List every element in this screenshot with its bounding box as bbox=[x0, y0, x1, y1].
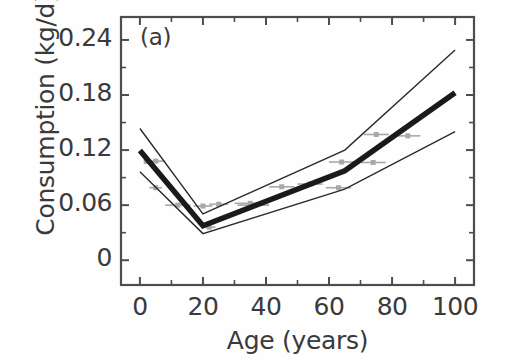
data-marker-4 bbox=[200, 204, 205, 209]
data-marker-1 bbox=[153, 159, 158, 164]
x-tick-label-5: 100 bbox=[415, 292, 495, 321]
data-series-lines bbox=[140, 50, 455, 234]
y-tick-label-3: 0.18 bbox=[2, 78, 112, 107]
y-tick-label-0: 0 bbox=[2, 243, 112, 272]
series-line-0 bbox=[140, 93, 455, 226]
series-line-2 bbox=[140, 132, 455, 234]
data-marker-9 bbox=[279, 184, 284, 189]
data-marker-15 bbox=[405, 133, 410, 138]
axis-ticks bbox=[121, 17, 474, 285]
data-marker-13 bbox=[371, 160, 376, 165]
y-tick-label-4: 0.24 bbox=[2, 23, 112, 52]
y-tick-label-1: 0.06 bbox=[2, 188, 112, 217]
y-tick-label-2: 0.12 bbox=[2, 133, 112, 162]
axes-spines bbox=[121, 17, 474, 285]
figure-panel-a: Consumption (kg/d) Age (years) (a) 02040… bbox=[0, 0, 505, 364]
data-marker-11 bbox=[336, 185, 341, 190]
data-marker-12 bbox=[339, 160, 344, 165]
data-marker-14 bbox=[374, 132, 379, 137]
